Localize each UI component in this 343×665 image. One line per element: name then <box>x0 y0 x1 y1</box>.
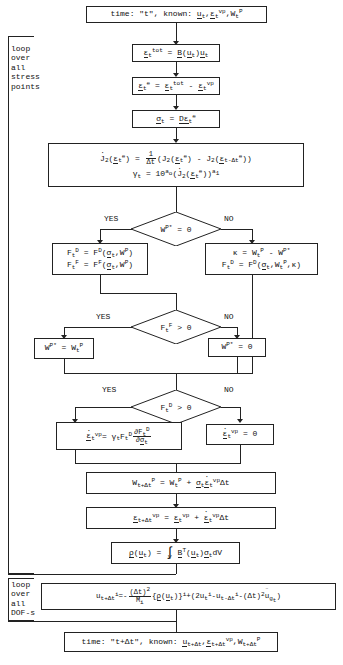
decision-wp-star-zero: WP* = 0 <box>131 212 221 246</box>
line-yes-2 <box>64 327 132 328</box>
arrow-no-3 <box>237 419 243 423</box>
fd-equation: FtD = FD(σt,WP) <box>67 249 133 257</box>
fd-kappa-equation: FtD = FD(σt,WtP,κ) <box>222 261 301 269</box>
connector-disp-down <box>176 610 177 621</box>
displacement-update-text: ut+Δti=-(Δt)2Mi{ρ(ut)}i+(2uti-ut-Δti-(Δt… <box>96 589 281 604</box>
line-no-1 <box>221 229 253 230</box>
connector-start-to-strain <box>176 23 177 43</box>
no-label-1: NO <box>224 214 234 223</box>
j2-invariant-box: ⋅J2(εte) = 1Δt(J2(εte) - J2(εt-Δte)) γt … <box>48 143 304 187</box>
dof-loop-return <box>8 621 176 622</box>
ff-equation: FtF = FF(σt,WP) <box>67 261 133 269</box>
connector-j2-to-decision <box>176 187 177 212</box>
connector-wpno-down <box>237 357 238 373</box>
stress-update-box: σt = Dεte <box>132 110 220 128</box>
line-no-2 <box>221 327 238 328</box>
viscoplastic-strain-update-text: εt+Δtvp = εtvp + ⋅εtvpΔt <box>133 514 229 522</box>
connector-vpno-down <box>240 445 241 463</box>
wp-star-zero-text: WP* = 0 <box>221 343 252 351</box>
time-known-end-box: time: "t+Δt", known: ut+Δt,εt+Δtvp,Wt+Δt… <box>64 632 278 652</box>
elastic-strain-text: εte = εttot - εtvp <box>138 82 214 90</box>
decision-wp-label: WP* = 0 <box>131 212 221 246</box>
time-known-end-text: time: "t+Δt", known: ut+Δt,εt+Δtvp,Wt+Δt… <box>82 638 261 646</box>
decision-fd-positive: FtD > 0 <box>131 390 221 424</box>
viscoplastic-strain-update-box: εt+Δtvp = εtvp + ⋅εtvpΔt <box>86 507 276 529</box>
kappa-damage-box: κ = WtP - WP* FtD = FD(σt,WtP,κ) <box>205 243 318 275</box>
gamma-equation: γt = 10ao(⋅J2(εte))a1 <box>133 170 220 178</box>
connector-wpyes-down <box>64 359 65 373</box>
no-label-2: NO <box>224 312 234 321</box>
yes-label-1: YES <box>104 214 118 223</box>
decision-fd-label: FtD > 0 <box>131 390 221 424</box>
viscoplastic-strain-rate-zero-text: ⋅εtvp = 0 <box>223 430 258 438</box>
connector-nobox-down <box>252 275 253 373</box>
line-yes-3 <box>75 407 132 408</box>
stress-loop-bracket <box>8 36 34 574</box>
stress-update-text: σt = Dεte <box>156 115 196 123</box>
plastic-work-update-text: Wt+ΔtP = WtP + σt⋅εtvpΔt <box>132 479 229 487</box>
merge-line-3 <box>75 463 241 464</box>
elastic-strain-box: εte = εttot - εtvp <box>132 77 220 95</box>
stress-loop-return <box>8 574 176 575</box>
yes-label-3: YES <box>102 385 116 394</box>
wp-star-assign-box: WP* = WtP <box>34 338 94 359</box>
j2-rate-equation: ⋅J2(εte) = 1Δt(J2(εte) - J2(εt-Δte)) <box>100 151 252 166</box>
connector-to-decision2 <box>176 293 177 310</box>
stress-loop-label: loop over all stress points <box>11 44 40 91</box>
line-yes-1 <box>100 229 132 230</box>
wp-star-zero-box: WP* = 0 <box>208 338 266 357</box>
viscoplastic-strain-rate-box: ⋅εtvp= γtFtD∂FtD∂σt <box>56 422 182 450</box>
time-known-start-box: time: "t", known: ut,εtvp,WtP <box>86 6 267 23</box>
plastic-work-update-box: Wt+ΔtP = WtP + σt⋅εtvpΔt <box>86 472 276 494</box>
connector-vpyes-down <box>75 450 76 463</box>
kappa-equation: κ = WtP - WP* <box>233 249 291 257</box>
wp-star-assign-text: WP* = WtP <box>45 344 83 352</box>
failure-functions-box: FtD = FD(σt,WP) FtF = FF(σt,WP) <box>52 243 148 275</box>
connector-force-down <box>176 564 177 574</box>
internal-force-integral-box: ρ(ut) = ∫VBT(ut)σtdV <box>111 542 240 564</box>
internal-force-integral-text: ρ(ut) = ∫VBT(ut)σtdV <box>129 548 222 557</box>
time-known-start-text: time: "t", known: ut,εtvp,WtP <box>110 10 242 18</box>
no-label-3: NO <box>224 385 234 394</box>
viscoplastic-strain-rate-text: ⋅εtvp= γtFtD∂FtD∂σt <box>86 429 151 444</box>
total-strain-box: εttot = B(ut)ut <box>132 44 220 62</box>
dof-loop-label: loop over all DOF-s <box>11 580 35 618</box>
connector-to-end <box>176 621 177 632</box>
yes-label-2: YES <box>96 312 110 321</box>
displacement-update-box: ut+Δti=-(Δt)2Mi{ρ(ut)}i+(2uti-ut-Δti-(Δt… <box>41 583 336 610</box>
connector-to-decision3 <box>176 373 177 390</box>
line-no-3 <box>221 407 241 408</box>
flowchart-canvas: time: "t", known: ut,εtvp,WtP loop over … <box>0 0 343 665</box>
connector-yesbox-down <box>100 275 101 293</box>
viscoplastic-strain-rate-zero-box: ⋅εtvp = 0 <box>206 424 274 445</box>
connector-yesbox-right <box>100 293 176 294</box>
total-strain-text: εttot = B(ut)ut <box>144 49 209 57</box>
merge-line-2 <box>64 373 253 374</box>
